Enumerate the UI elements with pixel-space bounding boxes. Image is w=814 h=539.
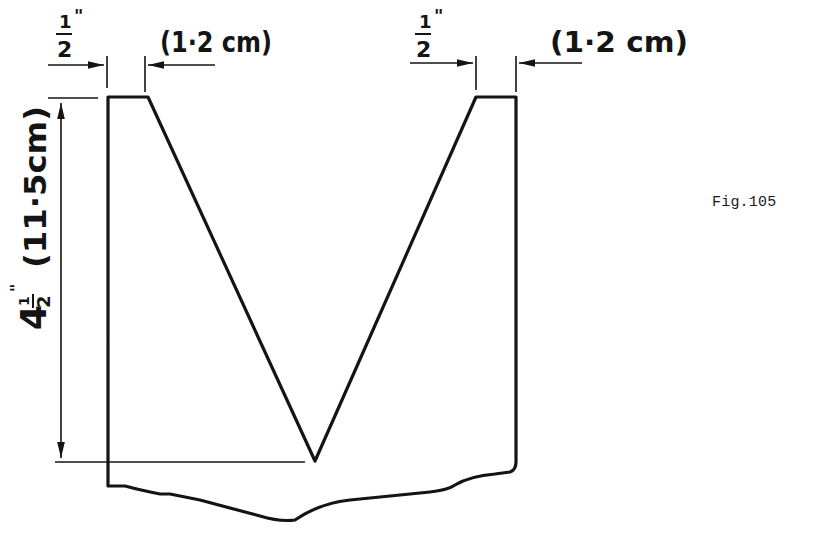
top-left-fraction-denominator: 2 bbox=[57, 37, 72, 62]
v-cut-pattern-diagram: 1 2 " (1·2 cm) 1 2 " (1·2 cm) bbox=[0, 0, 814, 539]
top-left-inch-mark: " bbox=[74, 5, 83, 26]
top-left-dimension: 1 2 " (1·2 cm) bbox=[48, 5, 272, 92]
height-dimension: 4 1 2 " (11·5cm) bbox=[7, 98, 305, 462]
height-fraction-denominator: 2 bbox=[33, 295, 54, 308]
top-left-fraction-numerator: 1 bbox=[59, 11, 72, 32]
top-right-fraction-numerator: 1 bbox=[419, 11, 432, 32]
height-metric-label: (11·5cm) bbox=[18, 106, 53, 268]
height-fraction-numerator: 1 bbox=[16, 296, 32, 306]
pattern-outline bbox=[108, 97, 516, 521]
height-inch-mark: " bbox=[7, 284, 26, 292]
figure-caption: Fig.105 bbox=[712, 194, 776, 211]
top-right-metric-label: (1·2 cm) bbox=[550, 26, 688, 59]
top-right-fraction-denominator: 2 bbox=[416, 37, 431, 62]
figure-page: 1 2 " (1·2 cm) 1 2 " (1·2 cm) bbox=[0, 0, 814, 539]
top-left-metric-label: (1·2 cm) bbox=[160, 26, 272, 59]
top-right-inch-mark: " bbox=[434, 5, 443, 26]
top-right-dimension: 1 2 " (1·2 cm) bbox=[410, 5, 688, 92]
